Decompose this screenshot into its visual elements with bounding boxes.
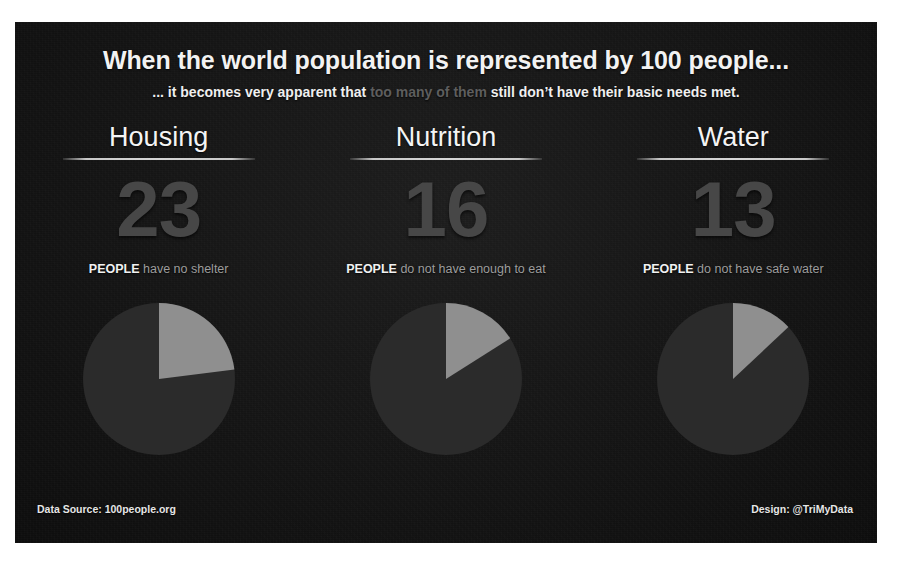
column-title: Housing <box>15 120 302 154</box>
stat-caption: PEOPLE have no shelter <box>15 262 302 276</box>
stat-column-water: Water 13 PEOPLE do not have safe water <box>590 120 877 458</box>
column-title: Nutrition <box>302 120 589 154</box>
stat-column-nutrition: Nutrition 16 PEOPLE do not have enough t… <box>302 120 589 458</box>
stat-value: 13 <box>590 166 877 252</box>
pie-chart-housing <box>15 300 302 458</box>
stat-value: 16 <box>302 166 589 252</box>
page-title: When the world population is represented… <box>15 46 877 75</box>
title-divider <box>350 158 542 160</box>
data-source-label: Data Source: 100people.org <box>37 503 176 515</box>
caption-rest: do not have enough to eat <box>397 262 546 276</box>
caption-keyword: PEOPLE <box>643 262 694 276</box>
pie-chart-water <box>590 300 877 458</box>
design-credit-label: Design: @TriMyData <box>751 503 853 515</box>
stat-columns: Housing 23 PEOPLE have no shelter <box>15 120 877 458</box>
caption-rest: have no shelter <box>140 262 229 276</box>
stat-value: 23 <box>15 166 302 252</box>
title-divider <box>637 158 829 160</box>
page-subtitle: ... it becomes very apparent that too ma… <box>15 84 877 100</box>
pie-slice-highlight <box>159 303 234 379</box>
pie-chart-nutrition <box>302 300 589 458</box>
stat-column-housing: Housing 23 PEOPLE have no shelter <box>15 120 302 458</box>
pie-svg <box>654 300 812 458</box>
pie-svg <box>80 300 238 458</box>
pie-svg <box>367 300 525 458</box>
caption-keyword: PEOPLE <box>89 262 140 276</box>
stat-caption: PEOPLE do not have safe water <box>590 262 877 276</box>
column-title: Water <box>590 120 877 154</box>
subtitle-lead: ... it becomes very apparent that <box>152 84 370 100</box>
subtitle-tail: still don’t have their basic needs met. <box>487 84 740 100</box>
poster-canvas: When the world population is represented… <box>15 22 877 543</box>
caption-rest: do not have safe water <box>694 262 824 276</box>
stat-caption: PEOPLE do not have enough to eat <box>302 262 589 276</box>
infographic-poster: When the world population is represented… <box>0 0 900 568</box>
title-divider <box>63 158 255 160</box>
subtitle-emphasis-dim: too many of them <box>370 84 487 100</box>
caption-keyword: PEOPLE <box>346 262 397 276</box>
